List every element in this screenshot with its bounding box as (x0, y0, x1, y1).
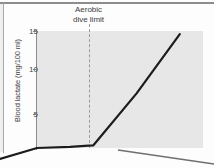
lactate-line (0, 34, 180, 159)
scan-page-edge-line (118, 150, 214, 164)
figure-container: 15 10 5 Blood lactate (mg/100 ml) Aerobi… (0, 0, 214, 168)
data-curve (0, 0, 214, 168)
